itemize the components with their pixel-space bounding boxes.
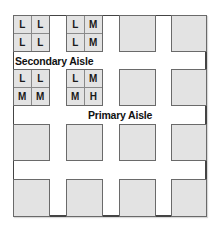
storage-block-r1c3: [119, 15, 156, 52]
cell-r2c2-4: H: [85, 88, 103, 106]
storage-block-r3c2: [66, 124, 103, 161]
storage-block-r1c2: L M L M: [66, 15, 103, 52]
primary-aisle-label: Primary Aisle: [88, 109, 152, 121]
cell-r1c1-4: L: [32, 34, 50, 52]
secondary-aisle-label: Secondary Aisle: [15, 55, 93, 67]
storage-block-r3c4: [171, 124, 207, 161]
cell-r1c2-4: M: [85, 34, 103, 52]
cell-r2c1-1: L: [14, 70, 32, 88]
storage-block-r1c1: L L L L: [13, 15, 50, 52]
cell-r2c1-2: L: [32, 70, 50, 88]
cell-r1c1-2: L: [32, 16, 50, 34]
cell-r2c1-3: M: [14, 88, 32, 106]
storage-block-r4c1: [13, 179, 50, 217]
storage-block-r2c2: L M M H: [66, 69, 103, 106]
storage-block-r3c3: [119, 124, 156, 161]
cell-r2c2-1: L: [67, 70, 85, 88]
storage-block-r4c2: [66, 179, 103, 217]
cell-r2c1-4: M: [32, 88, 50, 106]
storage-block-r1c4: [171, 15, 207, 52]
storage-block-r3c1: [13, 124, 50, 161]
storage-block-r2c4: [171, 69, 207, 106]
storage-block-r4c4: [171, 179, 207, 217]
cell-r1c2-3: L: [67, 34, 85, 52]
storage-block-r2c3: [119, 69, 156, 106]
cell-r1c2-2: M: [85, 16, 103, 34]
cell-r1c2-1: L: [67, 16, 85, 34]
cell-r1c1-1: L: [14, 16, 32, 34]
cell-r2c2-3: M: [67, 88, 85, 106]
storage-block-r4c3: [119, 179, 156, 217]
storage-block-r2c1: L L M M: [13, 69, 50, 106]
cell-r1c1-3: L: [14, 34, 32, 52]
cell-r2c2-2: M: [85, 70, 103, 88]
